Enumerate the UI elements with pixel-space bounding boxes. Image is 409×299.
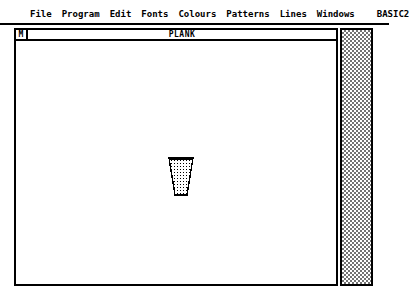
menu-item-file[interactable]: File	[30, 9, 52, 20]
menu-item-lines[interactable]: Lines	[280, 9, 307, 20]
menu-bar: File Program Edit Fonts Colours Patterns…	[0, 7, 389, 21]
vertical-scrollbar[interactable]	[340, 28, 373, 286]
drawing-canvas[interactable]	[14, 39, 338, 286]
menu-item-fonts[interactable]: Fonts	[141, 9, 168, 20]
window-title-text: PLANK	[28, 30, 336, 39]
scrollbar-track-pattern	[342, 30, 371, 284]
menu-item-edit[interactable]: Edit	[110, 9, 132, 20]
menu-item-windows[interactable]: Windows	[317, 9, 355, 20]
window-menu-icon: M	[19, 31, 24, 39]
menu-item-basic2[interactable]: BASIC2	[377, 9, 409, 20]
menu-bar-divider	[0, 23, 389, 25]
window-menu-button[interactable]: M	[16, 30, 28, 39]
trapezoid-shape[interactable]	[168, 157, 194, 196]
application-window: M PLANK	[14, 28, 373, 286]
menu-item-program[interactable]: Program	[62, 9, 100, 20]
menu-item-patterns[interactable]: Patterns	[226, 9, 269, 20]
menu-item-colours[interactable]: Colours	[178, 9, 216, 20]
